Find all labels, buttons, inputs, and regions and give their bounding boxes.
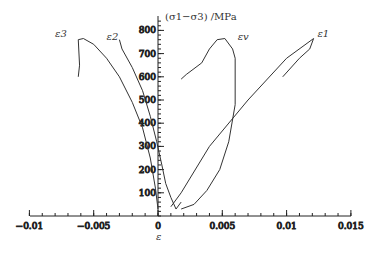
x-axis-label: ε — [156, 231, 161, 242]
y-tick-label: 800 — [139, 25, 156, 35]
x-tick-label: 0.015 — [338, 221, 364, 231]
stress-strain-chart: −0.01−0.00500.0050.010.015 1002003004005… — [0, 0, 375, 256]
y-tick-label: 200 — [139, 165, 156, 175]
x-tick-label: −0.005 — [77, 221, 111, 231]
x-tick-label: 0.005 — [209, 221, 235, 231]
y-axis-label: (σ1−σ3) /MPa — [165, 11, 237, 22]
y-tick-label: 700 — [139, 49, 156, 59]
y-tick-label: 400 — [139, 118, 156, 128]
y-tick-label: 100 — [139, 188, 156, 198]
x-tick-label: 0.01 — [277, 221, 297, 231]
curve-label: ε3 — [55, 28, 67, 39]
curve-label: εv — [238, 31, 249, 42]
x-tick-label: 0 — [155, 221, 161, 231]
y-tick-label: 600 — [139, 72, 156, 82]
y-tick-label: 500 — [139, 95, 156, 105]
curve-ε1 — [171, 39, 314, 207]
curve-label: ε2 — [107, 31, 119, 42]
curve-label: ε1 — [317, 28, 329, 39]
curve-εv — [181, 39, 235, 210]
x-tick-label: −0.01 — [16, 221, 44, 231]
